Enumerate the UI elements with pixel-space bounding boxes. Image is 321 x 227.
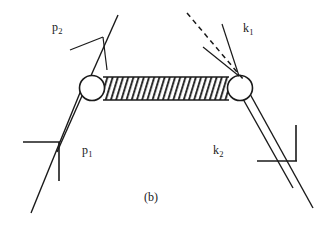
label-p2: p2 [52,21,63,36]
label-p2-sub: 2 [58,26,63,36]
photon-dashed-line-k1 [187,13,243,79]
blob-hatched-body [104,77,228,100]
feynman-diagram-figure: p2 k1 p1 k2 (b) [0,0,321,227]
label-p1: p1 [82,144,93,159]
fermion-line-k2-outer [250,94,313,208]
fermion-lines-right [243,94,313,208]
interaction-blob [80,76,253,101]
diagram-canvas [0,0,321,227]
figure-caption: (b) [144,191,158,203]
arrow-k1-barb-left [203,47,239,76]
label-k1: k1 [243,22,254,37]
arrow-k1-barb-right [222,24,239,76]
blob-vertex-left-circle [80,76,105,101]
arrow-p2-barb-left [70,37,103,50]
label-k1-sub: 1 [249,27,254,37]
label-p1-sub: 1 [88,149,93,159]
label-k2-sub: 2 [219,149,224,159]
blob-vertex-right-circle [228,76,253,101]
tick-mark-left [23,142,60,181]
fermion-line-k2-inner [243,99,293,188]
label-k2: k2 [213,144,224,159]
dashed-photon-segment [187,13,243,79]
fermion-lines-left [31,15,118,213]
